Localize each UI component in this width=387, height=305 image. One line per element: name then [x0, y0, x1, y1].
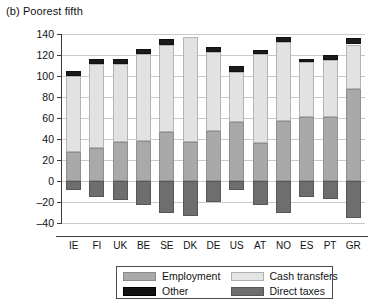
y-tick-mark: [57, 55, 61, 56]
bar-segment-other[interactable]: [253, 50, 268, 54]
bar-segment-taxes[interactable]: [253, 181, 268, 205]
x-tick-label: US: [230, 240, 244, 251]
bar-segment-other[interactable]: [276, 37, 291, 42]
x-tick-label: NO: [276, 240, 291, 251]
bar-stack[interactable]: [66, 34, 81, 223]
legend-label-employment: Employment: [162, 270, 220, 282]
bar-segment-other[interactable]: [229, 66, 244, 72]
legend-swatch-other: [123, 287, 156, 296]
bar-segment-taxes[interactable]: [346, 181, 361, 218]
bar-segment-other[interactable]: [299, 59, 314, 62]
bar-segment-taxes[interactable]: [206, 181, 221, 202]
chart-legend: Employment Cash transfers Other Direct t…: [116, 266, 333, 299]
bar-segment-taxes[interactable]: [136, 181, 151, 205]
figure-panel-b: (b) Poorest fifth Percentage of total 14…: [0, 0, 387, 305]
bar-segment-taxes[interactable]: [66, 181, 81, 190]
bar-segment-other[interactable]: [66, 71, 81, 76]
bar-segment-employment[interactable]: [276, 121, 291, 181]
bar-segment-cash[interactable]: [89, 64, 104, 148]
x-tick-label: DK: [183, 240, 197, 251]
legend-swatch-cash-transfers: [231, 272, 264, 281]
bar-stack[interactable]: [323, 34, 338, 223]
y-tick-mark: [57, 181, 61, 182]
bar-segment-cash[interactable]: [206, 52, 221, 131]
bar-segment-taxes[interactable]: [229, 181, 244, 190]
y-tick-mark: [57, 34, 61, 35]
y-tick-label: 120: [18, 49, 54, 61]
y-tick-label: 0: [18, 175, 54, 187]
bar-segment-cash[interactable]: [183, 37, 198, 142]
bar-segment-taxes[interactable]: [299, 181, 314, 197]
bar-segment-employment[interactable]: [183, 142, 198, 181]
legend-row-2: Other Direct taxes: [117, 284, 332, 298]
gridline: [62, 223, 365, 224]
bar-stack[interactable]: [113, 34, 128, 223]
bar-segment-employment[interactable]: [89, 148, 104, 181]
bar-stack[interactable]: [183, 34, 198, 223]
bar-segment-cash[interactable]: [346, 45, 361, 89]
bar-stack[interactable]: [346, 34, 361, 223]
plot-area: [62, 34, 365, 223]
bar-segment-employment[interactable]: [113, 142, 128, 181]
bar-segment-employment[interactable]: [323, 117, 338, 181]
y-tick-mark: [57, 97, 61, 98]
bar-segment-cash[interactable]: [299, 62, 314, 117]
bar-segment-other[interactable]: [346, 38, 361, 44]
bar-segment-other[interactable]: [113, 59, 128, 64]
bar-stack[interactable]: [206, 34, 221, 223]
legend-label-cash-transfers: Cash transfers: [270, 270, 338, 282]
bar-segment-taxes[interactable]: [276, 181, 291, 213]
legend-label-direct-taxes: Direct taxes: [270, 285, 325, 297]
bar-segment-cash[interactable]: [229, 72, 244, 122]
y-tick-mark: [57, 202, 61, 203]
y-tick-mark: [57, 139, 61, 140]
bar-segment-other[interactable]: [159, 39, 174, 44]
bar-segment-other[interactable]: [136, 49, 151, 54]
bar-segment-cash[interactable]: [159, 45, 174, 132]
bar-segment-employment[interactable]: [346, 89, 361, 181]
bar-segment-cash[interactable]: [323, 60, 338, 117]
bar-stack[interactable]: [276, 34, 291, 223]
bar-stack[interactable]: [89, 34, 104, 223]
y-tick-label: 100: [18, 70, 54, 82]
bar-stack[interactable]: [159, 34, 174, 223]
bar-segment-other[interactable]: [206, 47, 221, 52]
y-tick-label: 80: [18, 91, 54, 103]
bar-segment-taxes[interactable]: [183, 181, 198, 216]
bar-segment-employment[interactable]: [206, 131, 221, 181]
bar-segment-cash[interactable]: [276, 42, 291, 121]
bar-segment-taxes[interactable]: [89, 181, 104, 197]
y-tick-label: 40: [18, 133, 54, 145]
x-axis-line: [56, 236, 368, 237]
x-tick-label: PT: [324, 240, 337, 251]
bar-segment-employment[interactable]: [136, 141, 151, 181]
x-tick-label: SE: [160, 240, 173, 251]
bar-segment-cash[interactable]: [66, 76, 81, 152]
bar-segment-employment[interactable]: [229, 122, 244, 181]
legend-item-employment: Employment: [117, 270, 225, 282]
x-tick-label: IE: [69, 240, 78, 251]
legend-label-other: Other: [162, 285, 188, 297]
bar-segment-taxes[interactable]: [323, 181, 338, 199]
y-tick-mark: [57, 223, 61, 224]
bar-segment-other[interactable]: [323, 55, 338, 60]
y-tick-label: 140: [18, 28, 54, 40]
bar-stack[interactable]: [136, 34, 151, 223]
bar-segment-cash[interactable]: [136, 54, 151, 141]
bar-segment-taxes[interactable]: [113, 181, 128, 200]
bar-segment-employment[interactable]: [253, 143, 268, 181]
bar-segment-cash[interactable]: [253, 54, 268, 143]
legend-swatch-employment: [123, 272, 156, 281]
bar-segment-taxes[interactable]: [159, 181, 174, 213]
bar-segment-employment[interactable]: [66, 152, 81, 181]
legend-row-1: Employment Cash transfers: [117, 269, 332, 283]
bar-stack[interactable]: [253, 34, 268, 223]
legend-item-cash-transfers: Cash transfers: [225, 270, 333, 282]
x-tick-label: UK: [113, 240, 127, 251]
bar-segment-employment[interactable]: [299, 117, 314, 181]
bar-stack[interactable]: [229, 34, 244, 223]
bar-segment-employment[interactable]: [159, 132, 174, 181]
bar-segment-cash[interactable]: [113, 64, 128, 142]
bar-stack[interactable]: [299, 34, 314, 223]
bar-segment-other[interactable]: [89, 59, 104, 64]
